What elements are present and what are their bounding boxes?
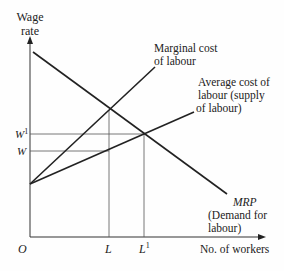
- l1-label: L1: [138, 241, 150, 256]
- w1-label: W1: [15, 127, 28, 140]
- origin-label: O: [18, 242, 27, 256]
- y-axis-label-line1: Wage: [16, 10, 43, 24]
- mrp-demand-curve: [33, 52, 227, 194]
- x-axis-label: No. of workers: [200, 243, 270, 255]
- mrp-label-line2: (Demand for: [208, 209, 267, 222]
- y-axis-label-line2: rate: [21, 24, 39, 38]
- acl-label-line3: of labour): [196, 102, 242, 115]
- mcl-label-line1: Marginal cost: [154, 42, 218, 55]
- mrp-label-line3: labour): [208, 222, 241, 235]
- mrp-label-line1: MRP: [232, 196, 257, 208]
- mcl-label-line2: of labour: [154, 55, 196, 67]
- average-cost-supply-curve: [30, 112, 194, 184]
- diagram-canvas: Wage rate O W1 W L L1 No. of workers Mar…: [0, 0, 284, 271]
- acl-label-line2: labour (supply: [198, 89, 265, 102]
- acl-label-line1: Average cost of: [198, 76, 270, 89]
- w-label: W: [17, 145, 27, 157]
- marginal-cost-curve: [30, 67, 155, 184]
- l-label: L: [104, 242, 112, 256]
- labour-market-diagram: Wage rate O W1 W L L1 No. of workers Mar…: [0, 0, 284, 271]
